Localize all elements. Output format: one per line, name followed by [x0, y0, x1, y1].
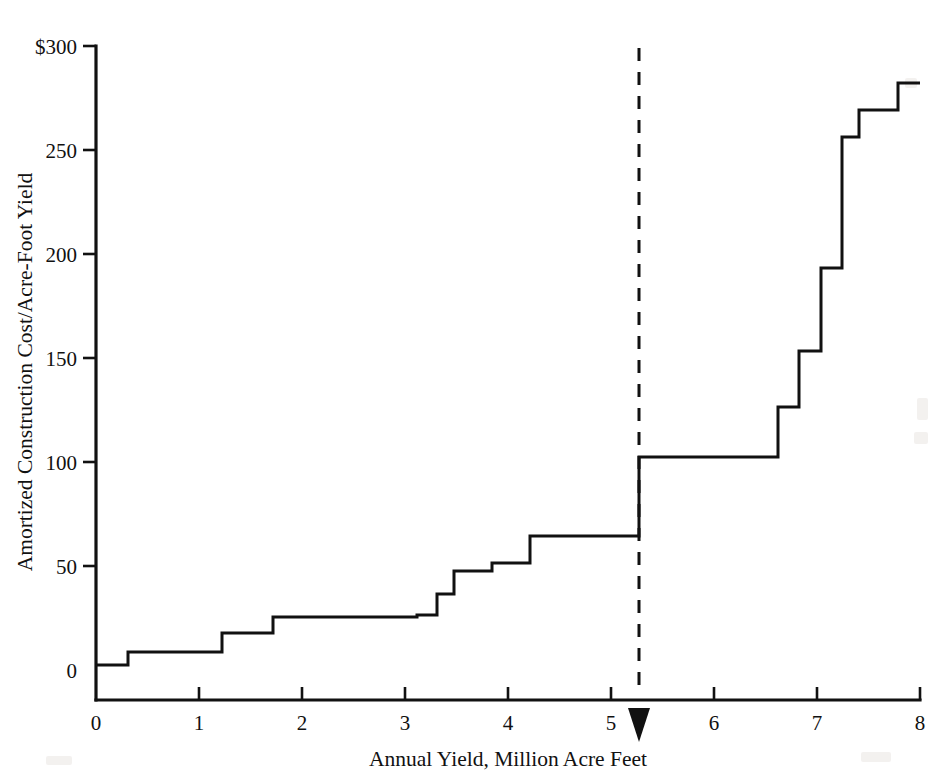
y-axis-ticks [83, 46, 96, 566]
pointer-triangle-marker [628, 708, 650, 742]
x-tick-label-7: 7 [812, 711, 823, 735]
y-tick-label-300: $300 [35, 35, 77, 59]
x-tick-label-2: 2 [297, 711, 308, 735]
x-tick-label-6: 6 [709, 711, 720, 735]
x-tick-label-1: 1 [194, 711, 205, 735]
x-axis-title: Annual Yield, Million Acre Feet [369, 747, 647, 771]
x-tick-label-4: 4 [503, 711, 514, 735]
y-axis-title: Amortized Construction Cost/Acre-Foot Yi… [13, 172, 37, 571]
chart-canvas: $300 250 200 150 100 50 0 0 1 2 3 4 5 6 … [0, 0, 932, 779]
y-tick-label-250: 250 [46, 139, 78, 163]
chart-figure: $300 250 200 150 100 50 0 0 1 2 3 4 5 6 … [0, 0, 932, 779]
y-tick-label-50: 50 [56, 555, 77, 579]
step-cost-curve [96, 83, 920, 665]
y-tick-label-0: 0 [67, 659, 78, 683]
y-tick-label-150: 150 [46, 347, 78, 371]
x-tick-label-0: 0 [91, 711, 102, 735]
x-tick-label-5: 5 [606, 711, 617, 735]
y-tick-label-100: 100 [46, 451, 78, 475]
y-tick-label-200: 200 [46, 243, 78, 267]
x-tick-label-8: 8 [915, 711, 926, 735]
x-axis-ticks [199, 687, 920, 700]
x-tick-label-3: 3 [400, 711, 411, 735]
